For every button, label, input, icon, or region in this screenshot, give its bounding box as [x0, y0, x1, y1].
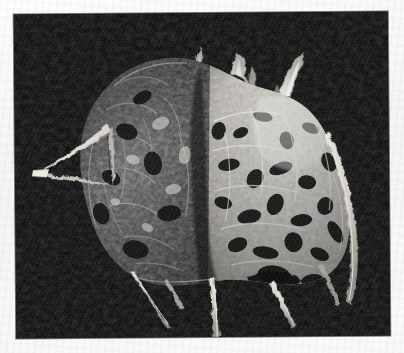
- emulsion-grain: [14, 12, 391, 339]
- photographic-plate: [14, 12, 391, 339]
- scanned-page: [0, 0, 404, 353]
- specimen-photograph: [14, 12, 391, 339]
